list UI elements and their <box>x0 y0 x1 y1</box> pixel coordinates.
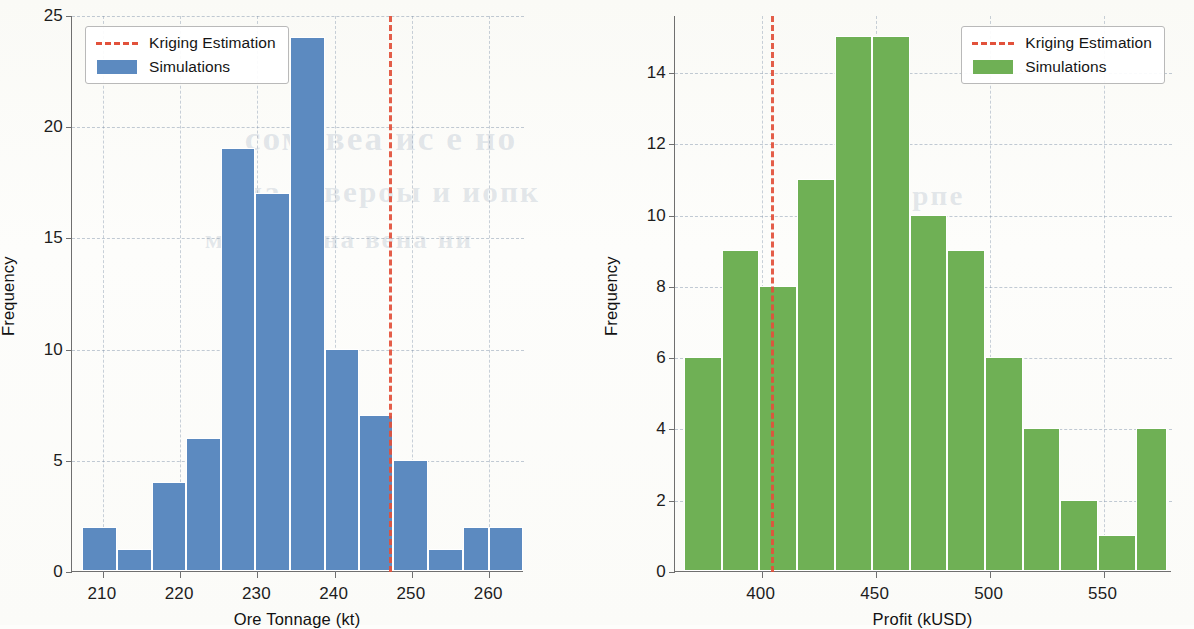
histogram-bar <box>393 460 428 571</box>
x-axis-tick <box>180 572 181 578</box>
legend-entry[interactable]: Simulations <box>972 58 1152 76</box>
histogram-bar <box>221 148 255 571</box>
y-axis-tick-label: 2 <box>628 491 666 511</box>
y-axis-tick <box>66 127 72 128</box>
x-axis-tick <box>103 572 104 578</box>
histogram-bar <box>947 250 985 571</box>
histogram-bar <box>186 438 221 571</box>
x-axis-tick-label: 550 <box>1088 584 1117 604</box>
histogram-bar <box>290 37 325 571</box>
histogram-bar <box>152 482 187 571</box>
y-axis-tick <box>669 358 675 359</box>
y-axis-tick-label: 4 <box>628 419 666 439</box>
histogram-bar <box>1098 535 1136 571</box>
x-axis-tick-label: 260 <box>474 584 503 604</box>
y-axis-title: Frequency <box>602 256 621 336</box>
x-axis-title: Ore Tonnage (kt) <box>234 610 361 629</box>
kriging-estimation-line <box>771 16 774 572</box>
histogram-bar <box>872 36 910 571</box>
dashed-line-icon <box>96 36 138 50</box>
histogram-bar <box>759 286 797 571</box>
histogram-bar <box>117 549 152 571</box>
y-axis-tick <box>669 572 675 573</box>
x-axis-tick <box>990 572 991 578</box>
histogram-bar <box>797 179 835 571</box>
histogram-bar <box>684 357 722 571</box>
x-axis-tick <box>762 572 763 578</box>
y-axis-tick <box>669 144 675 145</box>
y-axis-tick-label: 25 <box>25 6 63 26</box>
y-axis-tick-label: 14 <box>628 63 666 83</box>
profit-histogram-plot-area <box>674 16 1171 572</box>
x-axis-title: Profit (kUSD) <box>873 610 973 629</box>
histogram-bar <box>835 36 873 571</box>
legend-entry[interactable]: Simulations <box>96 58 276 76</box>
histogram-bar <box>82 527 117 571</box>
chart-legend[interactable]: Kriging EstimationSimulations <box>85 26 289 84</box>
x-axis-tick <box>876 572 877 578</box>
y-gridline <box>72 16 524 17</box>
y-axis-tick <box>669 216 675 217</box>
legend-entry[interactable]: Kriging Estimation <box>96 34 276 52</box>
y-axis-tick <box>66 350 72 351</box>
color-swatch-icon <box>972 60 1014 74</box>
y-axis-tick-label: 15 <box>25 228 63 248</box>
y-axis-tick <box>669 501 675 502</box>
y-axis-tick <box>669 287 675 288</box>
histogram-bar <box>985 357 1023 571</box>
y-axis-tick-label: 6 <box>628 348 666 368</box>
histogram-bar <box>489 527 523 571</box>
histogram-bar <box>1060 500 1098 571</box>
y-axis-tick-label: 12 <box>628 134 666 154</box>
y-axis-tick-label: 10 <box>25 340 63 360</box>
legend-label: Simulations <box>1025 58 1106 76</box>
legend-label: Kriging Estimation <box>149 34 276 52</box>
chart-legend[interactable]: Kriging EstimationSimulations <box>961 26 1165 84</box>
dashed-line-icon <box>972 36 1014 50</box>
ore-tonnage-histogram-plot-area <box>71 16 523 572</box>
color-swatch-glyph <box>973 60 1013 74</box>
x-gridline <box>489 16 490 572</box>
y-axis-title: Frequency <box>0 256 18 336</box>
legend-label: Kriging Estimation <box>1025 34 1152 52</box>
histogram-bar <box>255 193 290 571</box>
x-axis-tick-label: 450 <box>860 584 889 604</box>
y-axis-tick <box>66 16 72 17</box>
x-axis-tick-label: 210 <box>87 584 116 604</box>
y-axis-tick-label: 10 <box>628 206 666 226</box>
x-axis-tick <box>1104 572 1105 578</box>
legend-label: Simulations <box>149 58 230 76</box>
x-axis-tick <box>257 572 258 578</box>
y-axis-tick <box>66 238 72 239</box>
y-axis-tick-label: 20 <box>25 117 63 137</box>
histogram-bar <box>722 250 760 571</box>
y-axis-tick-label: 0 <box>628 562 666 582</box>
x-axis-tick-label: 250 <box>396 584 425 604</box>
histogram-bar <box>1023 428 1061 571</box>
dashed-line-glyph <box>96 42 138 45</box>
histogram-bar <box>910 215 948 571</box>
histogram-bar <box>428 549 463 571</box>
x-gridline <box>103 16 104 572</box>
profit-histogram-figure: 02468101214400450500550Profit (kUSD)Freq… <box>597 0 1194 625</box>
legend-entry[interactable]: Kriging Estimation <box>972 34 1152 52</box>
y-axis-tick-label: 0 <box>25 562 63 582</box>
x-axis-tick-label: 230 <box>242 584 271 604</box>
x-axis-tick <box>335 572 336 578</box>
x-axis-tick <box>412 572 413 578</box>
x-axis-tick-label: 220 <box>165 584 194 604</box>
y-axis-tick <box>66 572 72 573</box>
y-axis-tick <box>669 73 675 74</box>
x-axis-tick-label: 240 <box>319 584 348 604</box>
y-axis-tick-label: 5 <box>25 451 63 471</box>
histogram-bar <box>463 527 489 571</box>
histogram-bar <box>1136 428 1168 571</box>
y-axis-tick <box>669 429 675 430</box>
color-swatch-glyph <box>97 60 137 74</box>
dashed-line-glyph <box>972 42 1014 45</box>
x-gridline <box>1104 16 1105 572</box>
x-axis-tick <box>489 572 490 578</box>
y-axis-tick <box>66 461 72 462</box>
histogram-bar <box>325 349 360 571</box>
kriging-estimation-line <box>389 16 392 572</box>
